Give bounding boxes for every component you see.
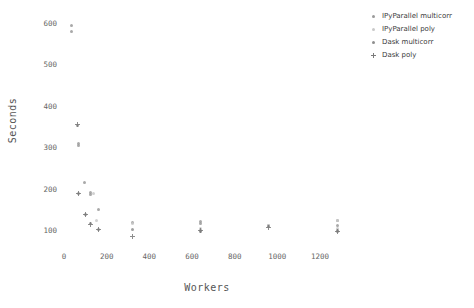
x-tick-1000: 1000 (262, 252, 292, 261)
y-axis-label: Seconds (7, 91, 18, 151)
data-point (266, 225, 271, 230)
y-tick-200: 200 (33, 185, 57, 194)
y-tick-400: 400 (33, 102, 57, 111)
scatter-plot-figure: Seconds Workers 100200300400500600 02004… (0, 0, 474, 308)
legend-marker-icon (368, 53, 378, 58)
data-point (199, 222, 202, 225)
x-tick-800: 800 (220, 252, 250, 261)
x-tick-200: 200 (92, 252, 122, 261)
y-tick-100: 100 (33, 226, 57, 235)
x-tick-1200: 1200 (305, 252, 335, 261)
data-point (96, 227, 101, 232)
x-axis-label: Workers (152, 282, 262, 293)
data-point (335, 229, 340, 234)
legend-label: Dask multicorr (378, 38, 433, 46)
data-point (77, 144, 80, 147)
data-point (83, 212, 88, 217)
legend-label: Dask poly (378, 51, 416, 59)
data-point (131, 222, 134, 225)
data-point (70, 30, 73, 33)
y-tick-600: 600 (33, 19, 57, 28)
data-point (75, 122, 80, 127)
legend-item-2[interactable]: Dask multicorr (368, 36, 472, 48)
data-point (97, 208, 100, 211)
legend-item-1[interactable]: IPyParallel poly (368, 23, 472, 35)
legend-item-0[interactable]: IPyParallel multicorr (368, 10, 472, 22)
x-tick-600: 600 (177, 252, 207, 261)
legend-marker-icon (368, 41, 378, 44)
data-point (83, 181, 86, 184)
data-point (131, 228, 134, 231)
data-point (198, 228, 203, 233)
legend: IPyParallel multicorrIPyParallel polyDas… (368, 10, 472, 62)
x-tick-400: 400 (134, 252, 164, 261)
legend-item-3[interactable]: Dask poly (368, 49, 472, 61)
data-point (88, 222, 93, 227)
data-point (95, 219, 98, 222)
y-tick-500: 500 (33, 60, 57, 69)
data-point (92, 192, 95, 195)
legend-marker-icon (368, 15, 378, 18)
legend-marker-icon (368, 28, 378, 31)
data-point (336, 219, 339, 222)
legend-label: IPyParallel poly (378, 25, 435, 33)
data-point (70, 24, 73, 27)
y-tick-300: 300 (33, 143, 57, 152)
data-point (130, 234, 135, 239)
legend-label: IPyParallel multicorr (378, 12, 452, 20)
data-point (76, 191, 81, 196)
x-tick-0: 0 (49, 252, 79, 261)
